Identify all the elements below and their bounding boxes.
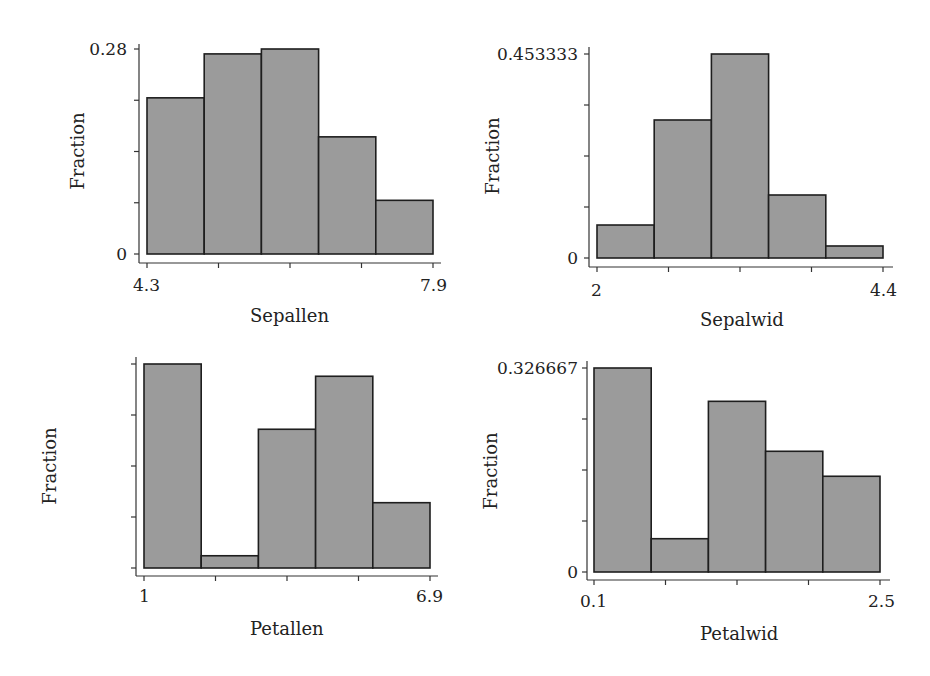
x-tick-max: 2.5 — [868, 593, 895, 610]
histogram-bar — [651, 539, 708, 572]
histogram-bar — [708, 401, 765, 572]
histogram-bar — [823, 476, 880, 572]
histogram-plot-area — [0, 0, 930, 676]
x-axis-label: Petalwid — [700, 625, 778, 643]
y-axis-label: Fraction — [482, 432, 500, 509]
histogram-bar — [766, 451, 823, 572]
histogram-petalwid: Fraction 0.326667 0 0.1 2.5 Petalwid — [0, 0, 930, 676]
x-tick-min: 0.1 — [580, 593, 607, 610]
y-tick-max: 0.326667 — [497, 360, 578, 377]
histogram-bar — [594, 368, 651, 572]
y-tick-zero: 0 — [567, 564, 578, 581]
